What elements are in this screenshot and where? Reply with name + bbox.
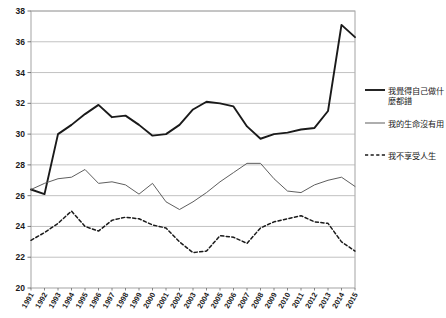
y-axis-tick-label: 28	[16, 160, 26, 170]
x-axis-tick-label: 2001	[155, 291, 171, 310]
x-axis-tick-label: 2011	[290, 291, 306, 310]
x-axis-tick-label: 2003	[182, 291, 198, 310]
x-axis-tick-label: 1999	[128, 291, 144, 310]
y-axis-tick-label: 36	[16, 37, 26, 47]
y-axis-tick-label: 30	[16, 129, 26, 139]
line-chart: 2022242628303234363819911992199319941995…	[0, 0, 446, 318]
x-axis-tick-label: 2009	[263, 291, 279, 310]
x-axis-tick-label: 2007	[236, 291, 252, 310]
x-axis-tick-label: 1993	[47, 291, 63, 310]
x-axis-tick-label: 1992	[33, 291, 49, 310]
y-axis-tick-label: 24	[16, 221, 26, 231]
x-axis-tick-label: 2015	[344, 291, 360, 310]
legend-label-0: 我覺得自己做什麼都錯	[388, 86, 446, 107]
x-axis-tick-label: 2012	[303, 291, 319, 310]
x-axis-tick-label: 2013	[317, 291, 333, 310]
plot-area-border	[31, 11, 355, 288]
y-axis-tick-label: 38	[16, 6, 26, 16]
x-axis-tick-label: 2005	[209, 291, 225, 310]
x-axis-tick-label: 1997	[101, 291, 117, 310]
x-axis-tick-label: 2004	[195, 290, 212, 310]
y-axis-tick-label: 22	[16, 252, 26, 262]
x-axis-tick-label: 2010	[276, 291, 292, 310]
y-axis-tick-label: 26	[16, 191, 26, 201]
x-axis-tick-label: 1995	[74, 291, 90, 310]
y-axis-tick-label: 34	[16, 68, 26, 78]
chart-container: 2022242628303234363819911992199319941995…	[0, 0, 446, 318]
x-axis-tick-label: 1994	[60, 290, 77, 310]
x-axis-tick-label: 2002	[168, 291, 184, 310]
legend-label-1: 我的生命沒有用	[388, 119, 446, 129]
x-axis-tick-label: 1996	[87, 291, 103, 310]
x-axis-tick-label: 2014	[330, 290, 347, 310]
x-axis-tick-label: 1998	[114, 291, 130, 310]
x-axis-tick-label: 1991	[20, 291, 36, 310]
legend-label-2: 我不享受人生	[388, 151, 446, 161]
x-axis-tick-label: 2008	[249, 291, 265, 310]
y-axis-tick-label: 20	[16, 283, 26, 293]
x-axis-tick-label: 2000	[141, 291, 157, 310]
y-axis-tick-label: 32	[16, 98, 26, 108]
x-axis-tick-label: 2006	[222, 291, 238, 310]
